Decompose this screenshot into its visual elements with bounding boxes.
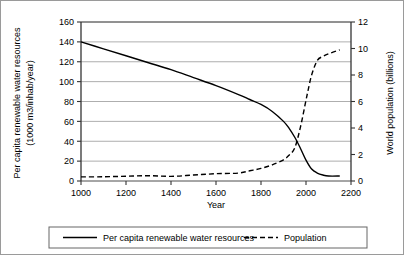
right-axis-tick-label: 12	[358, 17, 368, 27]
x-axis-tick-label: 2200	[341, 188, 361, 198]
x-axis-tick-label: 1800	[251, 188, 271, 198]
left-axis-tick-label: 160	[59, 17, 74, 27]
figure-container: Per capita renewable water resources (10…	[0, 0, 404, 255]
left-axis-tick-label: 20	[64, 156, 74, 166]
x-axis-title: Year	[207, 200, 225, 210]
left-axis-tick-label: 80	[64, 97, 74, 107]
left-axis-tick-label: 40	[64, 137, 74, 147]
chart-canvas: Per capita renewable water resources (10…	[1, 1, 404, 255]
left-axis-title-line2: (1000 m3/inhab/year)	[25, 60, 35, 146]
left-axis-title-line1: Per capita renewable water resources	[12, 27, 22, 179]
left-axis-title: Per capita renewable water resources (10…	[12, 27, 35, 179]
left-axis-tick-label: 140	[59, 37, 74, 47]
right-axis-tick-label: 0	[358, 176, 363, 186]
right-axis-tick-label: 6	[358, 97, 363, 107]
x-axis-tick-label: 1400	[161, 188, 181, 198]
left-axis-tick-label: 120	[59, 57, 74, 67]
legend: Per capita renewable water resourcesPopu…	[49, 227, 367, 248]
legend-label: Population	[284, 233, 327, 243]
right-axis-title: World population (billions)	[385, 51, 395, 154]
right-axis-tick-label: 4	[358, 123, 363, 133]
axis-tick-labels: 0204060801001201401600246810121000120014…	[59, 17, 368, 198]
x-axis-tick-label: 2000	[296, 188, 316, 198]
axis-ticks	[77, 22, 355, 185]
left-axis-tick-label: 100	[59, 77, 74, 87]
right-axis-tick-label: 8	[358, 70, 363, 80]
left-axis-tick-label: 60	[64, 117, 74, 127]
series-line-population	[81, 50, 340, 177]
right-axis-tick-label: 10	[358, 44, 368, 54]
gridlines	[81, 22, 351, 161]
x-axis-tick-label: 1600	[206, 188, 226, 198]
legend-label: Per capita renewable water resources	[103, 233, 255, 243]
x-axis-tick-label: 1000	[71, 188, 91, 198]
right-axis-tick-label: 2	[358, 150, 363, 160]
left-axis-tick-label: 0	[69, 176, 74, 186]
x-axis-tick-label: 1200	[116, 188, 136, 198]
